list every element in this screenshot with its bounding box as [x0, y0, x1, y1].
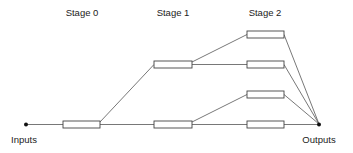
outputs-label: Outputs: [302, 134, 336, 145]
stage-2-label: Stage 2: [249, 7, 282, 18]
edge-s0-to-s1-top: [100, 65, 154, 123]
stage-1-label: Stage 1: [157, 7, 190, 18]
edge-s2c-to-output: [284, 95, 319, 125]
edges: [26, 35, 319, 125]
stage-2-box-3: [247, 91, 284, 98]
stage-0-box: [63, 121, 100, 128]
stage-2-box-4: [247, 121, 284, 128]
stage-0-label: Stage 0: [66, 7, 99, 18]
stage-2-box-1: [247, 31, 284, 38]
edge-s1bottom-to-s2c: [192, 95, 247, 123]
edge-s2b-to-output: [284, 65, 319, 125]
stage-network-diagram: Stage 0 Stage 1 Stage 2 Inputs Outputs: [0, 0, 353, 153]
edge-s2a-to-output: [284, 35, 319, 125]
stage-1-box-top: [154, 61, 192, 68]
edge-s1top-to-s2a: [192, 35, 247, 63]
input-node: [24, 123, 28, 127]
stage-1-box-bottom: [154, 121, 192, 128]
inputs-label: Inputs: [11, 134, 37, 145]
stage-2-box-2: [247, 61, 284, 68]
output-node: [317, 123, 321, 127]
